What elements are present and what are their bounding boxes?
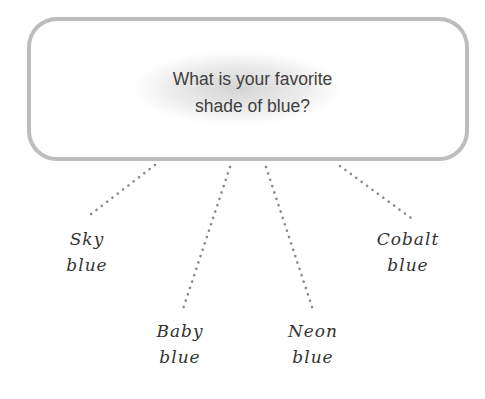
diagram-canvas: What is your favorite shade of blue? Sky… <box>0 0 485 399</box>
answer-cobalt-line-1: Cobalt <box>362 226 454 252</box>
answer-baby-line-1: Baby <box>145 318 215 344</box>
answer-cobalt-line-2: blue <box>362 252 454 278</box>
answer-cobalt: Cobalt blue <box>362 226 454 278</box>
answer-sky: Sky blue <box>52 226 122 278</box>
connector-lines <box>0 0 485 399</box>
answer-neon-line-1: Neon <box>278 318 348 344</box>
answer-sky-line-2: blue <box>52 252 122 278</box>
answer-baby: Baby blue <box>145 318 215 370</box>
answer-neon: Neon blue <box>278 318 348 370</box>
connector-sky <box>86 165 155 218</box>
connector-cobalt <box>340 166 411 218</box>
connector-neon <box>266 167 314 313</box>
answer-baby-line-2: blue <box>145 344 215 370</box>
connector-baby <box>182 167 230 312</box>
answer-neon-line-2: blue <box>278 344 348 370</box>
answer-sky-line-1: Sky <box>52 226 122 252</box>
